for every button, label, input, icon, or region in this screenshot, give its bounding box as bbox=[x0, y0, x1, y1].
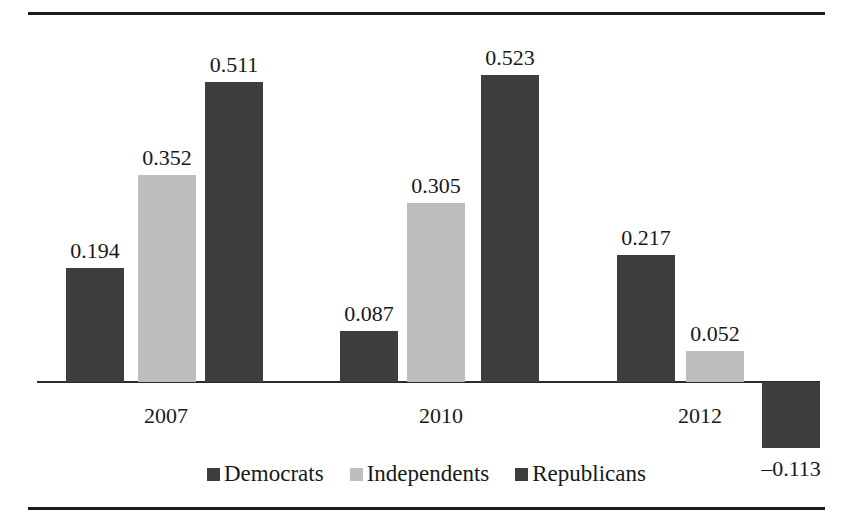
legend-label: Democrats bbox=[224, 462, 324, 485]
value-label-independents-2010: 0.305 bbox=[386, 175, 486, 197]
chart-figure: 0.1940.3520.5110.0870.3050.5230.2170.052… bbox=[0, 0, 853, 520]
value-label-independents-2007: 0.352 bbox=[117, 147, 217, 169]
bar-democrats-2007 bbox=[66, 268, 124, 382]
bar-independents-2010 bbox=[407, 203, 465, 382]
plot-area: 0.1940.3520.5110.0870.3050.5230.2170.052… bbox=[0, 0, 853, 520]
value-label-republicans-2010: 0.523 bbox=[460, 47, 560, 69]
bar-republicans-2012 bbox=[762, 382, 820, 448]
legend-item-independents[interactable]: Independents bbox=[350, 462, 490, 485]
value-label-independents-2012: 0.052 bbox=[665, 323, 765, 345]
category-label-2007: 2007 bbox=[106, 405, 226, 427]
category-label-2012: 2012 bbox=[640, 405, 760, 427]
value-label-republicans-2007: 0.511 bbox=[184, 54, 284, 76]
bar-democrats-2010 bbox=[340, 331, 398, 382]
legend-label: Independents bbox=[367, 462, 490, 485]
legend-item-republicans[interactable]: Republicans bbox=[515, 462, 646, 485]
bar-democrats-2012 bbox=[617, 255, 675, 382]
legend-label: Republicans bbox=[532, 462, 646, 485]
category-label-2010: 2010 bbox=[381, 405, 501, 427]
bar-independents-2007 bbox=[138, 175, 196, 382]
legend-swatch-icon-democrats bbox=[207, 468, 220, 481]
value-label-democrats-2012: 0.217 bbox=[596, 227, 696, 249]
bar-independents-2012 bbox=[686, 351, 744, 382]
bar-republicans-2010 bbox=[481, 75, 539, 382]
legend-item-democrats[interactable]: Democrats bbox=[207, 462, 324, 485]
bar-republicans-2007 bbox=[205, 82, 263, 382]
value-label-republicans-2012: –0.113 bbox=[741, 458, 841, 480]
legend-swatch-icon-republicans bbox=[515, 468, 528, 481]
value-label-democrats-2010: 0.087 bbox=[319, 303, 419, 325]
legend-swatch-icon-independents bbox=[350, 468, 363, 481]
value-label-democrats-2007: 0.194 bbox=[45, 240, 145, 262]
